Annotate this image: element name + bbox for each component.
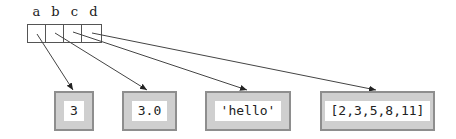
arrow-a [37,34,73,90]
object-value: [2,3,5,8,11] [325,101,431,121]
diagram-canvas: a b c d 3 3.0 'hello' [2,3,5,8,11] [0,0,456,139]
object-value: 'hello' [215,101,282,121]
object-float: 3.0 [122,91,177,131]
object-string: 'hello' [205,91,291,131]
object-int: 3 [54,91,94,131]
arrow-c [73,32,247,90]
object-value: 3 [64,101,84,121]
object-list: [2,3,5,8,11] [320,91,435,131]
object-value: 3.0 [132,101,167,121]
arrow-d [92,33,376,90]
